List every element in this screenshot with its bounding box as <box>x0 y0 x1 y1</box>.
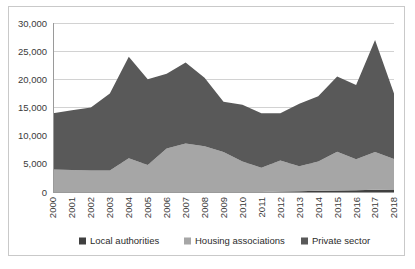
y-tick-label: 10,000 <box>18 130 47 141</box>
x-tick-label: 2007 <box>180 197 191 218</box>
y-tick-label: 20,000 <box>18 74 47 85</box>
x-tick-label: 2013 <box>294 197 305 218</box>
x-axis-tick-labels: 2000200120022003200420052006200720082009… <box>47 197 399 218</box>
x-tick-label: 2008 <box>199 197 210 218</box>
chart-frame: 05,00010,00015,00020,00025,00030,000 200… <box>8 6 405 256</box>
legend-label: Housing associations <box>195 235 285 246</box>
area-series-group <box>53 40 394 192</box>
chart-legend: Local authoritiesHousing associationsPri… <box>79 235 370 246</box>
x-tick-label: 2011 <box>256 197 267 217</box>
area-series-private-sector <box>53 40 394 171</box>
x-tick-label: 2003 <box>104 197 115 218</box>
stacked-area-chart: 05,00010,00015,00020,00025,00030,000 200… <box>9 7 404 255</box>
x-tick-label: 2002 <box>85 197 96 218</box>
y-tick-label: 30,000 <box>18 18 47 29</box>
x-tick-label: 2018 <box>388 197 399 218</box>
x-tick-label: 2005 <box>142 197 153 218</box>
legend-label: Private sector <box>312 235 370 246</box>
x-tick-label: 2012 <box>275 197 286 218</box>
legend-swatch <box>79 238 86 245</box>
y-tick-label: 0 <box>42 187 47 198</box>
x-tick-label: 2015 <box>332 197 343 218</box>
x-tick-label: 2006 <box>161 197 172 218</box>
x-tick-label: 2001 <box>66 197 77 218</box>
y-axis-tick-labels: 05,00010,00015,00020,00025,00030,000 <box>18 18 47 198</box>
legend-swatch <box>301 238 308 245</box>
x-tick-label: 2000 <box>47 197 58 218</box>
x-tick-label: 2010 <box>237 197 248 218</box>
x-tick-label: 2017 <box>369 197 380 218</box>
x-tick-label: 2004 <box>123 197 134 218</box>
y-tick-label: 25,000 <box>18 46 47 57</box>
legend-label: Local authorities <box>90 235 159 246</box>
x-tick-label: 2009 <box>218 197 229 218</box>
y-tick-label: 15,000 <box>18 102 47 113</box>
y-tick-label: 5,000 <box>23 158 47 169</box>
x-tick-label: 2016 <box>351 197 362 218</box>
x-tick-label: 2014 <box>313 197 324 218</box>
legend-swatch <box>184 238 191 245</box>
